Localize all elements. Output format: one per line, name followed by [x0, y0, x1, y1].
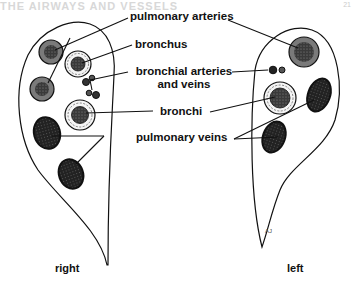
right-pulmonary-artery-lower — [30, 77, 54, 101]
artist-initials: AJ — [265, 228, 272, 234]
label-bronchial-vessels-line1: bronchial arteries — [134, 65, 234, 78]
left-pulmonary-artery — [289, 37, 319, 67]
label-left-lung: left — [287, 262, 304, 274]
label-right-lung: right — [55, 262, 79, 274]
right-bronchus — [65, 51, 91, 77]
label-bronchial-vessels: bronchial arteries and veins — [134, 65, 234, 91]
label-bronchi: bronchi — [160, 105, 202, 118]
left-bronchial-vessels — [269, 66, 285, 74]
right-bronchi — [65, 100, 95, 130]
right-pulmonary-vein-upper — [30, 114, 63, 152]
right-pulmonary-vein-lower — [55, 156, 88, 192]
label-pulmonary-arteries: pulmonary arteries — [130, 10, 234, 23]
label-pulmonary-veins: pulmonary veins — [136, 131, 227, 144]
label-bronchial-vessels-line2: and veins — [134, 78, 234, 91]
left-pulmonary-vein-upper — [303, 75, 335, 114]
label-bronchus: bronchus — [135, 38, 187, 51]
